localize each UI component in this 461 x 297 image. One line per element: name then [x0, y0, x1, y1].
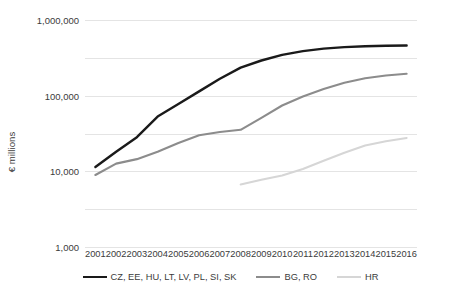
x-axis-tick-label: 2009	[251, 249, 272, 259]
gridline: 1	[85, 247, 417, 248]
x-axis-tick-label: 2004	[147, 249, 168, 259]
x-axis-tick-label: 2013	[334, 249, 355, 259]
series-lines	[85, 20, 417, 247]
y-axis-tick-label: 1,000	[9, 242, 79, 253]
legend-swatch-icon	[83, 276, 107, 278]
legend-item[interactable]: HR	[337, 272, 378, 282]
x-axis-tick-label: 2001	[85, 249, 106, 259]
chart-legend: CZ, EE, HU, LT, LV, PL, SI, SKBG, ROHR	[0, 272, 461, 282]
x-axis-tick-label: 2012	[313, 249, 334, 259]
x-axis-tick-label: 2014	[355, 249, 376, 259]
y-axis-tick-label: 100,000	[9, 90, 79, 101]
legend-label: CZ, EE, HU, LT, LV, PL, SI, SK	[111, 272, 237, 282]
legend-swatch-icon	[256, 276, 280, 278]
legend-label: HR	[365, 272, 378, 282]
x-axis-tick-label: 2002	[106, 249, 127, 259]
series-line	[95, 74, 406, 175]
x-axis-tick-label: 2016	[396, 249, 417, 259]
y-axis-tick-label: 1,000,000	[9, 15, 79, 26]
series-line	[95, 45, 406, 167]
plot-area: 1,000,000100,00010,0001,000100101	[85, 20, 417, 247]
x-axis: 2001200220032004200520062007200820092010…	[85, 249, 417, 265]
x-axis-tick-label: 2015	[376, 249, 397, 259]
x-axis-tick-label: 2008	[230, 249, 251, 259]
x-axis-tick-label: 2005	[168, 249, 189, 259]
line-chart: € millions 1,000,000100,00010,0001,00010…	[0, 0, 461, 297]
x-axis-tick-label: 2007	[210, 249, 231, 259]
y-axis-title-label: € millions	[6, 112, 17, 192]
x-axis-tick-label: 2003	[127, 249, 148, 259]
legend-item[interactable]: BG, RO	[256, 272, 317, 282]
x-axis-tick-label: 2010	[272, 249, 293, 259]
legend-swatch-icon	[337, 276, 361, 278]
x-axis-tick-label: 2011	[293, 249, 313, 259]
y-axis-tick-label: 10,000	[9, 166, 79, 177]
series-line	[241, 138, 407, 184]
legend-item[interactable]: CZ, EE, HU, LT, LV, PL, SI, SK	[83, 272, 237, 282]
legend-label: BG, RO	[284, 272, 317, 282]
x-axis-tick-label: 2006	[189, 249, 210, 259]
